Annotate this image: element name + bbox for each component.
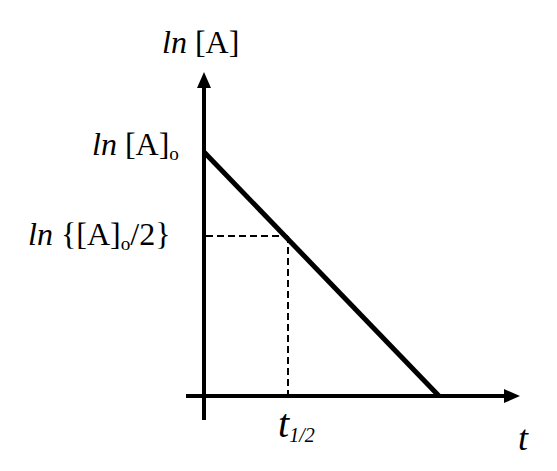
subscript-text: 1/2 [289, 424, 315, 446]
subscript-text: o [169, 143, 179, 164]
ln-text: ln [162, 24, 187, 60]
ln-text: ln [92, 126, 117, 162]
y-intercept-label: ln [A]o [92, 128, 179, 163]
y-axis-arrow-icon [197, 72, 211, 88]
concentration-text: [A] [125, 126, 169, 162]
y-axis-label: ln [A] [162, 26, 239, 58]
t-text: t [278, 401, 289, 446]
divide-text: /2} [130, 216, 170, 252]
concentration-text: {[A] [61, 216, 121, 252]
x-axis-arrow-icon [504, 389, 520, 403]
subscript-text: o [121, 233, 131, 254]
ln-text: ln [28, 216, 53, 252]
x-axis-label: t [518, 420, 528, 456]
half-concentration-label: ln {[A]o/2} [28, 218, 171, 253]
half-life-label: t1/2 [278, 404, 315, 445]
concentration-text: [A] [195, 24, 239, 60]
decay-line [204, 152, 439, 396]
